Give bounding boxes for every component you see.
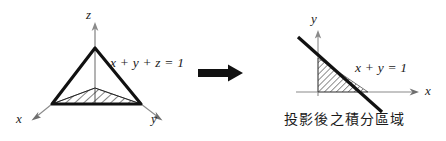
equation-line-2d: x + y = 1 bbox=[355, 61, 407, 75]
axis-label-y-3d: y bbox=[151, 112, 157, 125]
figure-caption: 投影後之積分區域 bbox=[284, 112, 406, 126]
projection-arrow-shape bbox=[198, 65, 243, 82]
shaded-base-region-3d bbox=[52, 88, 141, 104]
math-figure-projection: z x y x + y + z = 1 y x x + y = 1 投影後之積分… bbox=[0, 0, 446, 141]
equation-plane-3d: x + y + z = 1 bbox=[110, 56, 184, 70]
axis-x-3d bbox=[32, 104, 53, 121]
axis-label-y-2d: y bbox=[311, 12, 317, 25]
axis-label-x-2d: x bbox=[425, 84, 431, 97]
axis-label-z-3d: z bbox=[86, 8, 91, 21]
axis-label-x-3d: x bbox=[16, 112, 22, 125]
